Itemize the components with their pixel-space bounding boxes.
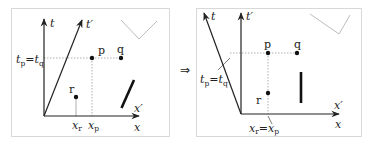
light-cone-icon: [121, 20, 157, 39]
t-prime-axis-label: t′: [86, 18, 93, 31]
event-p: [90, 56, 94, 60]
x-axis-label: x: [335, 118, 342, 131]
tp-equals-tq-label: tp=tq: [16, 53, 44, 68]
t-prime-axis-label: t′: [246, 10, 253, 23]
event-p-label: p: [264, 38, 271, 51]
x-prime-axis-label: x′: [134, 102, 143, 115]
event-q-label: q: [117, 43, 124, 56]
t-axis-label: t: [50, 17, 55, 30]
panel-after: t t′ x′ x p q r tp=tq xr=xp: [197, 9, 362, 137]
event-r: [266, 91, 270, 95]
x-p-label: xp: [88, 119, 99, 133]
x-r-label: xr: [72, 119, 82, 133]
x-prime-axis-label: x′: [334, 99, 343, 112]
event-r-label: r: [256, 94, 262, 107]
event-p: [266, 51, 270, 55]
event-q: [295, 51, 299, 55]
tp-equals-tq-label: tp=tq: [200, 73, 228, 88]
event-r: [74, 95, 78, 99]
x-axis-label: x: [134, 121, 141, 134]
light-cone-icon: [310, 14, 350, 34]
t-axis-label: t: [211, 10, 216, 23]
spacetime-diagram: t t′ x′ x p q r tp=tq xr xp ⇒ t: [0, 0, 365, 147]
event-q: [119, 56, 123, 60]
xr-equals-xp-label: xr=xp: [249, 122, 279, 136]
event-r-label: r: [69, 83, 75, 96]
panel-before: t t′ x′ x p q r tp=tq xr xp: [12, 9, 170, 137]
event-q-label: q: [294, 38, 301, 51]
rod-segment: [122, 80, 135, 108]
event-p-label: p: [98, 44, 105, 57]
t-axis: [204, 13, 241, 114]
implies-arrow-icon: ⇒: [180, 63, 190, 77]
